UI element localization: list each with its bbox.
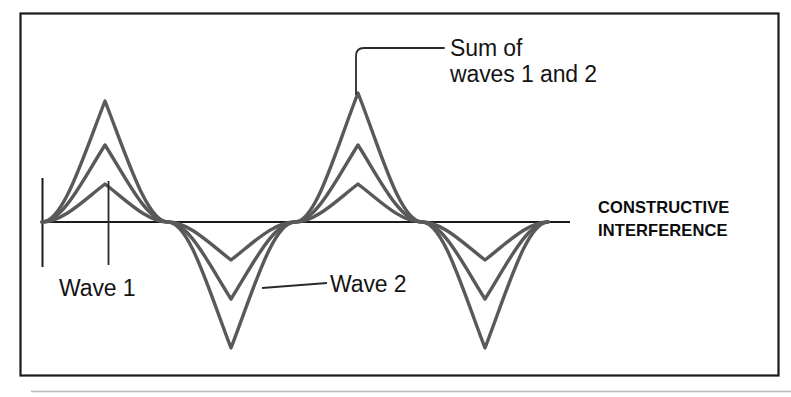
- wave-1-label: Wave 1: [59, 275, 136, 301]
- wave-2-label: Wave 2: [330, 271, 407, 297]
- interference-figure: Sum of waves 1 and 2 Wave 1 Wave 2 CONST…: [0, 0, 791, 397]
- sum-of-waves-label-line1: Sum of: [450, 35, 523, 61]
- interference-heading-line1: CONSTRUCTIVE: [598, 198, 729, 216]
- figure-canvas: Sum of waves 1 and 2 Wave 1 Wave 2 CONST…: [0, 0, 791, 397]
- sum-of-waves-label-line2: waves 1 and 2: [449, 61, 597, 87]
- interference-heading-line2: INTERFERENCE: [598, 221, 728, 239]
